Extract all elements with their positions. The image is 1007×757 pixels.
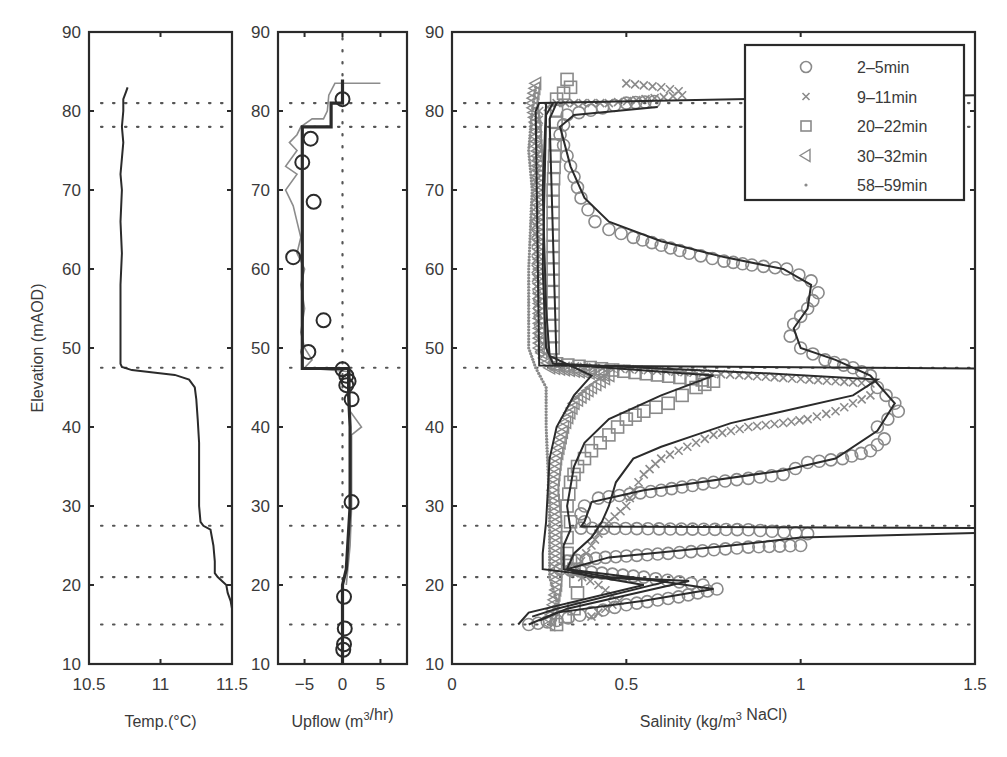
y-tick-label: 10 — [251, 655, 270, 674]
marker-dot — [528, 240, 531, 243]
marker-dot — [527, 319, 530, 322]
marker-x — [635, 478, 643, 486]
marker-dot — [527, 316, 530, 319]
plot-area — [286, 38, 407, 664]
marker-dot — [527, 313, 530, 316]
plot-area — [101, 87, 232, 624]
marker-square — [662, 397, 674, 409]
marker-dot — [527, 340, 530, 343]
y-tick-label: 30 — [251, 497, 270, 516]
marker-dot — [528, 258, 531, 261]
marker-dot — [545, 444, 548, 447]
marker-dot — [528, 237, 531, 240]
marker-x — [657, 83, 665, 91]
x-tick-label: −5 — [295, 675, 314, 694]
marker-dot — [527, 149, 530, 152]
marker-x — [631, 80, 639, 88]
marker-dot — [542, 380, 545, 383]
marker-dot — [545, 447, 548, 450]
marker-circle — [697, 545, 709, 557]
marker-dot — [528, 249, 531, 252]
marker-dot — [527, 286, 530, 289]
marker-square — [547, 308, 559, 320]
y-tick-label: 60 — [425, 260, 444, 279]
marker-dot — [527, 343, 530, 346]
upflow-x-axis-title: Upflow (m3/hr) — [291, 706, 393, 730]
marker-dot — [545, 416, 548, 419]
marker-dot — [548, 550, 551, 553]
y-tick-label: 80 — [425, 102, 444, 121]
marker-dot — [548, 529, 551, 532]
marker-circle — [664, 523, 676, 535]
marker-x — [796, 416, 804, 424]
marker-x — [832, 407, 840, 415]
y-tick-label: 90 — [62, 23, 81, 42]
marker-x — [813, 412, 821, 420]
marker-x — [718, 429, 726, 437]
marker-dot — [527, 307, 530, 310]
marker-dot — [545, 410, 548, 413]
y-tick-label: 20 — [62, 576, 81, 595]
marker-dot — [539, 375, 542, 378]
marker-circle — [586, 522, 598, 534]
marker-dot — [527, 277, 530, 280]
measured-flow-trace — [286, 83, 381, 585]
marker-square — [612, 421, 624, 433]
y-tick-label: 70 — [251, 181, 270, 200]
marker-dot — [545, 404, 548, 407]
x-tick-label: 10.5 — [72, 675, 105, 694]
x-tick-label: 0.5 — [615, 675, 639, 694]
y-tick-label: 10 — [62, 655, 81, 674]
marker-dot — [527, 334, 530, 337]
marker-dot — [530, 355, 533, 358]
upflow-panel: 102030405060708090−505Upflow (m3/hr) — [251, 23, 407, 730]
y-tick-label: 60 — [62, 260, 81, 279]
x-tick-label: 1.5 — [963, 675, 987, 694]
y-tick-label: 20 — [251, 576, 270, 595]
legend-label: 20–22min — [857, 118, 927, 135]
marker-circle — [620, 523, 632, 535]
marker-square — [547, 195, 559, 207]
marker-dot — [527, 280, 530, 283]
y-tick-label: 30 — [62, 497, 81, 516]
marker-x — [849, 399, 857, 407]
marker-x — [840, 378, 848, 386]
marker-dot — [533, 363, 536, 366]
marker-dot — [527, 310, 530, 313]
y-tick-label: 60 — [251, 260, 270, 279]
flow-measurement-circle — [317, 313, 331, 327]
marker-x — [692, 439, 700, 447]
marker-dot — [527, 304, 530, 307]
marker-circle — [589, 216, 601, 228]
marker-circle — [573, 107, 585, 119]
marker-x — [779, 419, 787, 427]
marker-x — [640, 81, 648, 89]
x-tick-label: 11.5 — [216, 675, 248, 694]
marker-dot — [527, 331, 530, 334]
y-tick-label: 80 — [251, 102, 270, 121]
legend: 2–5min9–11min20–22min30–32min58–59min — [745, 45, 964, 200]
marker-x — [640, 470, 648, 478]
marker-dot — [529, 216, 532, 219]
marker-circle — [631, 523, 643, 535]
temperature-panel: 10203040506070809010.51111.5Temp.(°C) — [62, 23, 248, 730]
chart-canvas: 10203040506070809010.51111.5Temp.(°C)102… — [0, 0, 1007, 757]
marker-circle — [674, 546, 686, 558]
y-tick-label: 90 — [425, 23, 444, 42]
y-tick-label: 90 — [251, 23, 270, 42]
flow-measurement-circle — [307, 195, 321, 209]
marker-dot — [528, 255, 531, 258]
marker-dot — [545, 413, 548, 416]
marker-circle — [685, 546, 697, 558]
flow-measurement-circle — [338, 621, 352, 635]
marker-dot — [527, 261, 530, 264]
marker-circle — [608, 522, 620, 534]
marker-dot — [527, 152, 530, 155]
marker-circle — [892, 405, 904, 417]
flow-measurement-circle — [304, 132, 318, 146]
marker-square — [676, 389, 688, 401]
legend-label: 30–32min — [857, 148, 927, 165]
marker-dot — [545, 431, 548, 434]
legend-box — [745, 45, 964, 200]
marker-dot — [545, 438, 548, 441]
